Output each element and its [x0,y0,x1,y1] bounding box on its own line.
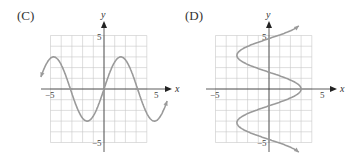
y-tick-neg5-c: −5 [92,138,102,148]
graph-c: x y 5 −5 −5 5 [0,0,181,160]
graph-panel-d: (D) x y 5 −5 −5 5 [181,0,362,160]
axes-c [41,21,172,152]
axes-d [206,21,337,152]
y-axis-arrow-icon [266,21,272,28]
x-tick-5-d: 5 [320,90,325,100]
y-tick-5-c: 5 [97,32,102,42]
y-axis-label-c: y [100,9,106,20]
x-axis-label-c: x [174,83,180,94]
x-axis-label-d: x [339,83,345,94]
x-tick-neg5-d: −5 [210,90,220,100]
x-tick-neg5-c: −5 [45,90,55,100]
y-axis-arrow-icon [101,21,107,28]
x-tick-5-c: 5 [154,90,159,100]
x-axis-arrow-icon [165,86,172,92]
graph-panel-c: (C) x y 5 −5 −5 5 [0,0,181,160]
x-axis-arrow-icon [330,86,337,92]
y-tick-neg5-d: −5 [257,138,267,148]
y-axis-label-d: y [265,9,271,20]
graph-d: x y 5 −5 −5 5 [181,0,362,160]
